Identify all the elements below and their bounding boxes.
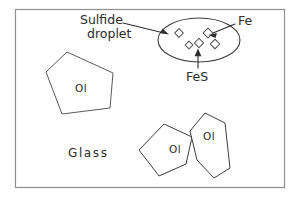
- fes-label: FeS: [186, 69, 208, 84]
- sulfide-droplet-label-line1: Sulfide: [80, 12, 123, 27]
- olivine-grain-lower-right-label: Ol: [203, 130, 215, 142]
- olivine-grain-large-label: Ol: [75, 82, 87, 94]
- olivine-grain-lower-left-label: Ol: [169, 143, 181, 155]
- sulfide-droplet-label-line2: droplet: [87, 26, 132, 41]
- glass-matrix-label: Glass: [68, 146, 109, 160]
- fe-label: Fe: [238, 13, 253, 28]
- figure-canvas: Glass Ol Ol Ol Sulfide droplet Fe FeS: [0, 0, 297, 201]
- schematic-diagram: Glass Ol Ol Ol Sulfide droplet Fe FeS: [0, 0, 297, 201]
